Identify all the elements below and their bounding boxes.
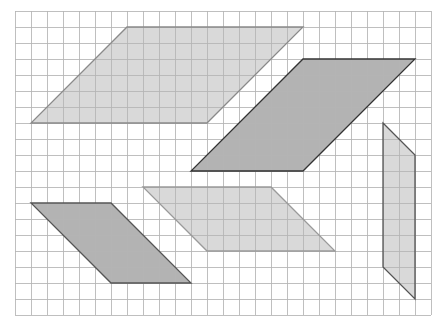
grid-lines [15,11,432,316]
parallelogram-grid-diagram [0,0,445,326]
